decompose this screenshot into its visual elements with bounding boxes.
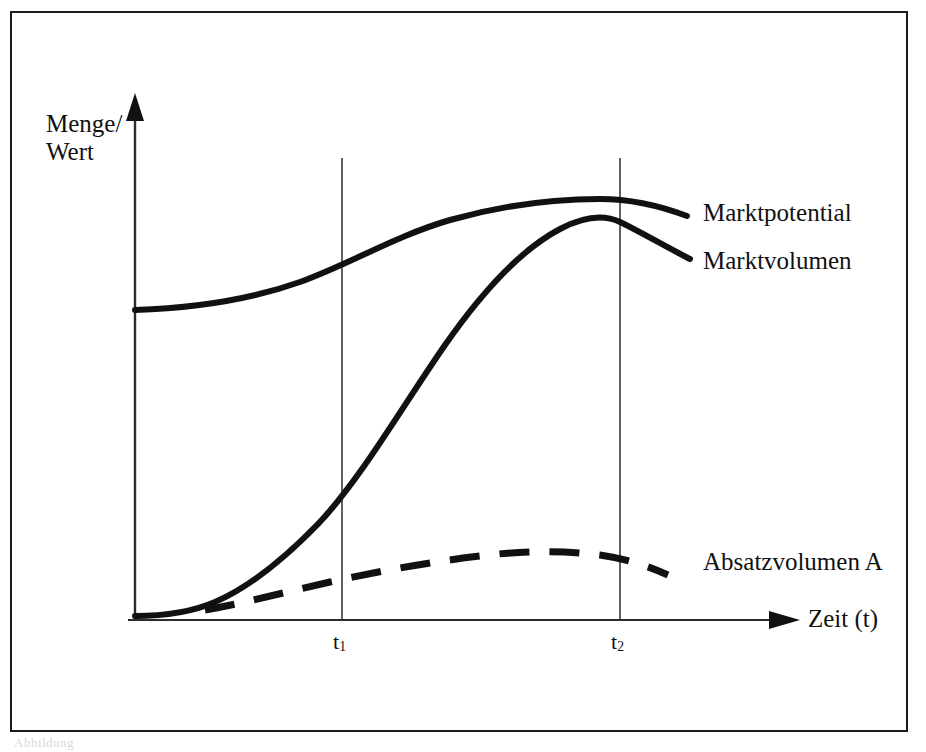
x-tick-label-t1-sub: 1 [339, 639, 346, 654]
x-tick-label-t1: t1 [333, 630, 346, 655]
y-axis-label-line1: Menge/ [46, 110, 122, 137]
series-label-marktpotential: Marktpotential [703, 199, 852, 227]
series-label-absatzvolumen: Absatzvolumen A [703, 548, 883, 576]
figure-caption: Abbildung [14, 736, 74, 751]
y-axis-label: Menge/ Wert [46, 110, 122, 166]
x-tick-label-t2-sub: 2 [617, 639, 624, 654]
figure-frame [10, 11, 908, 732]
series-label-marktvolumen: Marktvolumen [703, 247, 852, 275]
x-axis-label: Zeit (t) [808, 605, 878, 633]
x-tick-label-t2: t2 [611, 630, 624, 655]
figure-root: Menge/ Wert Zeit (t) Marktpotential Mark… [0, 0, 926, 752]
y-axis-label-line2: Wert [46, 138, 122, 166]
